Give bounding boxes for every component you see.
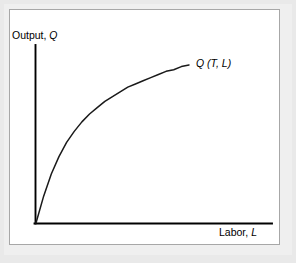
x-axis-label: Labor, L xyxy=(219,227,257,239)
figure-root: Output, Q Labor, L Q (T, L) xyxy=(0,0,296,263)
curve-label-symbol: Q xyxy=(196,57,204,69)
curve-label: Q (T, L) xyxy=(196,58,231,70)
x-axis-label-text: Labor, xyxy=(219,226,251,238)
production-function-curve xyxy=(36,65,189,223)
y-axis-label: Output, Q xyxy=(12,30,58,42)
curve-label-args: (T, L) xyxy=(204,57,231,69)
y-axis-label-text: Output, xyxy=(12,29,49,41)
x-axis-label-symbol: L xyxy=(251,226,257,238)
y-axis-label-symbol: Q xyxy=(49,29,57,41)
